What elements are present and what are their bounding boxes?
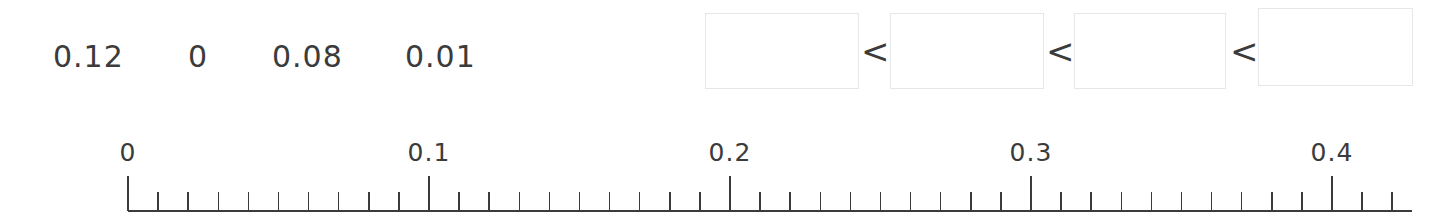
number-line-tick-label: 0.2: [709, 140, 752, 165]
number-line-tick-label: 0.4: [1311, 140, 1354, 165]
number-line-tick-label: 0.1: [408, 140, 451, 165]
number-line-exercise: 0.1200.080.01 <<< 00.10.20.30.4: [0, 0, 1448, 218]
number-line-tick-label: 0: [120, 140, 137, 165]
number-line-graphic: [0, 0, 1448, 218]
number-line-tick-label: 0.3: [1010, 140, 1053, 165]
